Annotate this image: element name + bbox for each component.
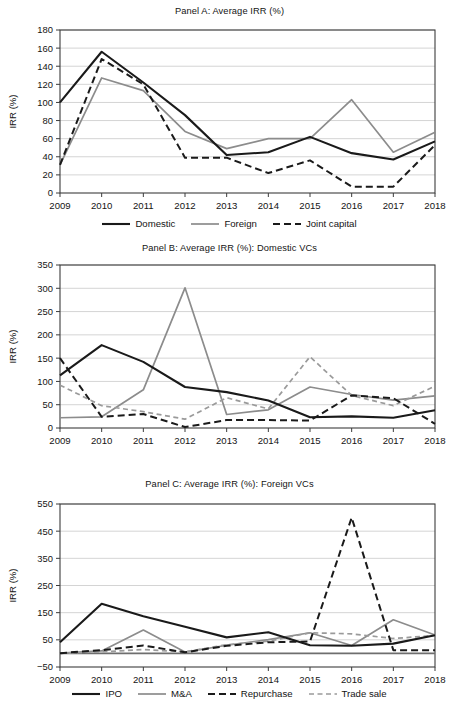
svg-text:2009: 2009: [49, 674, 70, 685]
svg-text:2010: 2010: [91, 200, 112, 211]
svg-text:2011: 2011: [133, 435, 154, 446]
svg-text:50: 50: [43, 399, 53, 410]
svg-text:60: 60: [43, 133, 53, 144]
svg-text:2009: 2009: [49, 435, 70, 446]
legend-item-joint-capital: Joint capital: [273, 219, 357, 229]
legend-label: Foreign: [224, 219, 257, 229]
svg-text:160: 160: [37, 43, 53, 54]
svg-text:2009: 2009: [49, 200, 70, 211]
series-m-a: [60, 288, 435, 418]
svg-text:300: 300: [37, 283, 53, 294]
figure-irr-panels: Panel A: Average IRR (%) 020406080100120…: [0, 0, 459, 712]
svg-text:0: 0: [48, 187, 53, 198]
legend-label: Joint capital: [306, 219, 357, 229]
svg-text:2013: 2013: [216, 674, 237, 685]
svg-text:2016: 2016: [341, 674, 362, 685]
series-trade-sale: [60, 357, 435, 419]
panel-a-plot: 0204060801001201401601802009201020112012…: [0, 0, 459, 237]
svg-text:40: 40: [43, 151, 53, 162]
legend-swatch-solid-icon: [102, 219, 130, 229]
svg-text:2018: 2018: [424, 200, 445, 211]
svg-text:200: 200: [37, 329, 53, 340]
svg-text:2017: 2017: [383, 435, 404, 446]
panel-c: Panel C: Average IRR (%): Foreign VCs −5…: [0, 473, 459, 712]
svg-text:50: 50: [43, 634, 53, 645]
legend-item-foreign: Foreign: [191, 219, 257, 229]
svg-text:2013: 2013: [216, 435, 237, 446]
panel-a: Panel A: Average IRR (%) 020406080100120…: [0, 0, 459, 237]
svg-text:2017: 2017: [383, 674, 404, 685]
svg-text:0: 0: [48, 422, 53, 433]
svg-text:350: 350: [37, 553, 53, 564]
svg-text:−50: −50: [37, 661, 53, 672]
svg-text:350: 350: [37, 259, 53, 270]
svg-text:20: 20: [43, 169, 53, 180]
svg-text:150: 150: [37, 353, 53, 364]
svg-text:2010: 2010: [91, 674, 112, 685]
svg-text:120: 120: [37, 79, 53, 90]
svg-text:250: 250: [37, 306, 53, 317]
legend-swatch-dashed-icon: [273, 219, 301, 229]
svg-text:2014: 2014: [258, 200, 280, 211]
svg-text:150: 150: [37, 607, 53, 618]
series-foreign: [60, 78, 435, 165]
svg-text:2010: 2010: [91, 435, 112, 446]
svg-text:IRR (%): IRR (%): [7, 568, 18, 602]
svg-text:IRR (%): IRR (%): [7, 329, 18, 363]
svg-text:80: 80: [43, 115, 53, 126]
svg-text:2012: 2012: [174, 200, 195, 211]
panel-c-plot: −505015025035045055020092010201120122013…: [0, 473, 459, 712]
svg-text:250: 250: [37, 580, 53, 591]
svg-text:2015: 2015: [299, 435, 320, 446]
svg-text:2011: 2011: [133, 200, 154, 211]
svg-text:2016: 2016: [341, 200, 362, 211]
svg-text:2016: 2016: [341, 435, 362, 446]
svg-text:100: 100: [37, 97, 53, 108]
svg-text:2018: 2018: [424, 435, 445, 446]
panel-b: Panel B: Average IRR (%): Domestic VCs 0…: [0, 237, 459, 473]
svg-text:180: 180: [37, 24, 53, 35]
legend-swatch-solid-icon: [191, 219, 219, 229]
legend-item-domestic: Domestic: [102, 219, 175, 229]
svg-text:2015: 2015: [299, 674, 320, 685]
svg-text:140: 140: [37, 61, 53, 72]
panel-b-plot: 0501001502002503003502009201020112012201…: [0, 237, 459, 473]
svg-text:2014: 2014: [258, 435, 280, 446]
svg-text:2015: 2015: [299, 200, 320, 211]
svg-text:IRR (%): IRR (%): [7, 94, 18, 128]
svg-text:550: 550: [37, 498, 53, 509]
svg-text:2014: 2014: [258, 674, 280, 685]
panel-a-legend: DomesticForeignJoint capital: [0, 219, 459, 229]
series-joint-capital: [60, 59, 435, 187]
svg-text:2012: 2012: [174, 435, 195, 446]
svg-text:450: 450: [37, 526, 53, 537]
svg-text:2011: 2011: [133, 674, 154, 685]
legend-label: Domestic: [135, 219, 175, 229]
svg-text:2012: 2012: [174, 674, 195, 685]
svg-text:2013: 2013: [216, 200, 237, 211]
svg-text:2017: 2017: [383, 200, 404, 211]
svg-text:2018: 2018: [424, 674, 445, 685]
svg-text:100: 100: [37, 376, 53, 387]
